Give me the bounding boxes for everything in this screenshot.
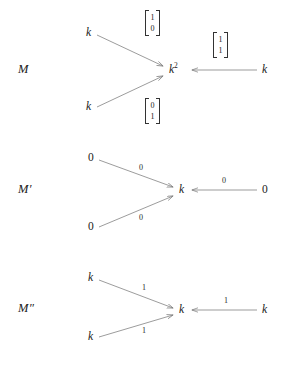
edge-label-right-row-1: 1 1 xyxy=(213,32,228,58)
edge-label-right-row-2: 0 xyxy=(222,177,226,185)
edge-label-top-row-3: 1 xyxy=(142,284,146,292)
node-center-row-2: k xyxy=(179,184,184,196)
arrow-top-left-row-3 xyxy=(99,280,173,308)
vector-entry: 0 xyxy=(151,23,155,35)
edge-label-right-row-3: 1 xyxy=(224,297,228,305)
bracket-right-icon xyxy=(156,98,160,124)
node-right-row-3: k xyxy=(262,304,267,316)
arrow-layer xyxy=(0,0,285,370)
vector-entry: 1 xyxy=(151,12,155,24)
vector-entry: 0 xyxy=(151,100,155,112)
arrow-top-left-row-2 xyxy=(99,160,173,187)
node-bottom-left-row-3: k xyxy=(88,331,93,343)
vector-entry: 1 xyxy=(219,45,223,57)
vector-entries: 1 0 xyxy=(149,10,156,36)
bracket-right-icon xyxy=(156,10,160,36)
node-center-row-1-exponent: 2 xyxy=(174,61,178,70)
node-center-row-3: k xyxy=(179,304,184,316)
node-top-left-row-3: k xyxy=(88,272,93,284)
row-label-m-prime: M′ xyxy=(18,183,32,196)
edge-label-bottom-row-1: 0 1 xyxy=(145,98,160,124)
node-top-left-row-2: 0 xyxy=(88,152,94,164)
row-3-arrows xyxy=(99,280,257,337)
node-center-row-3-base: k xyxy=(179,303,184,315)
arrow-bottom-left-row-2 xyxy=(99,196,173,227)
row-2-arrows xyxy=(99,160,257,227)
node-bottom-left-row-1: k xyxy=(86,101,91,113)
row-label-m: M xyxy=(18,63,29,76)
vector-entries: 1 1 xyxy=(217,32,224,58)
morphism-diagram-figure: M k k k k2 1 0 0 1 1 1 M′ 0 0 0 k 0 xyxy=(0,0,285,370)
node-center-row-1: k2 xyxy=(169,64,178,76)
vector-entry: 1 xyxy=(219,34,223,46)
node-center-row-2-base: k xyxy=(179,183,184,195)
edge-label-top-row-1: 1 0 xyxy=(145,10,160,36)
bracket-right-icon xyxy=(224,32,228,58)
node-right-row-2: 0 xyxy=(262,184,268,196)
arrow-top-left-row-1 xyxy=(97,35,163,66)
node-bottom-left-row-2: 0 xyxy=(88,221,94,233)
node-right-row-1: k xyxy=(262,64,267,76)
edge-label-bottom-row-2: 0 xyxy=(139,214,143,222)
row-label-m-double-prime: M″ xyxy=(18,302,34,315)
vector-entry: 1 xyxy=(151,111,155,123)
arrow-bottom-left-row-3 xyxy=(99,315,173,337)
node-top-left-row-1: k xyxy=(86,27,91,39)
edge-label-bottom-row-3: 1 xyxy=(142,327,146,335)
vector-entries: 0 1 xyxy=(149,98,156,124)
edge-label-top-row-2: 0 xyxy=(139,164,143,172)
